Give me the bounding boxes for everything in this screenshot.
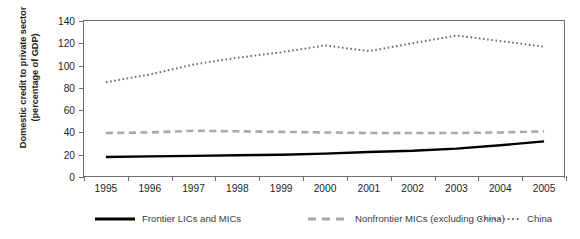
y-axis-tick-label: 120: [58, 38, 75, 49]
y-axis-tick-label: 20: [64, 149, 75, 160]
chart-figure: Domestic credit to private sector (perce…: [0, 0, 580, 239]
y-axis-title-line-2: (percentage of GDP): [29, 0, 41, 171]
series-line-dotted: [106, 35, 544, 82]
y-axis-tick-label: 40: [64, 127, 75, 138]
x-axis-tick-label: 1999: [270, 183, 293, 194]
x-axis-tick-label: 1998: [226, 183, 249, 194]
y-axis-title-line-1: Domestic credit to private sector: [18, 0, 30, 171]
y-axis-tick-label: 140: [58, 16, 75, 27]
legend-item-2[interactable]: Nonfrontier MICs (excluding China): [308, 213, 505, 224]
y-axis-tick-label: 80: [64, 82, 75, 93]
x-axis-tick-label: 2005: [533, 183, 556, 194]
x-axis-tick-label: 1996: [138, 183, 161, 194]
legend-label: Frontier LICs and MICs: [142, 213, 241, 224]
y-axis-tick-label: 100: [58, 60, 75, 71]
y-axis-title: Domestic credit to private sector (perce…: [18, 0, 41, 171]
x-axis-tick-label: 1995: [95, 183, 118, 194]
y-axis-tick-label: 0: [69, 172, 75, 183]
x-axis-tick-label: 2004: [489, 183, 512, 194]
x-axis-tick-label: 1997: [182, 183, 205, 194]
series-layer: [84, 21, 566, 177]
y-axis-title-container: Domestic credit to private sector (perce…: [0, 0, 56, 190]
x-axis-tick: [566, 176, 567, 181]
dashed-line-marker: [308, 214, 348, 224]
legend-item-3[interactable]: China: [480, 213, 552, 224]
series-line-solid: [106, 141, 544, 157]
solid-line-marker: [95, 214, 135, 224]
y-axis-tick-label: 60: [64, 105, 75, 116]
x-axis-tick-label: 2002: [401, 183, 424, 194]
legend-item-1[interactable]: Frontier LICs and MICs: [95, 213, 241, 224]
x-axis-tick-label: 2001: [357, 183, 380, 194]
x-axis-tick-label: 2003: [445, 183, 468, 194]
chart-legend: Frontier LICs and MICsNonfrontier MICs (…: [0, 209, 580, 235]
x-axis-tick-label: 2000: [314, 183, 337, 194]
plot-area: 020406080100120140 199519961997199819992…: [83, 21, 565, 177]
dotted-line-marker: [480, 214, 520, 224]
legend-label: China: [527, 213, 552, 224]
series-line-dashed: [106, 131, 544, 133]
